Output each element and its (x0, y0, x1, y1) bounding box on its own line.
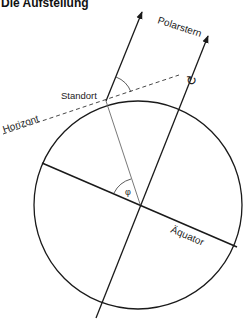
aequator-label: Äquator (169, 224, 206, 248)
earth-orientation-diagram: Polarstern Standort Horizont Äquator φ ↻ (0, 0, 248, 326)
phi-label: φ (125, 187, 131, 197)
equator-line (42, 163, 237, 247)
polarstern-label: Polarstern (156, 14, 203, 39)
rotation-icon: ↻ (186, 73, 197, 88)
horizont-label: Horizont (1, 113, 40, 135)
standort-polar-arrow (106, 12, 142, 101)
horizon-angle-arc (116, 77, 131, 92)
standort-label: Standort (61, 90, 97, 101)
standort-radius (106, 101, 140, 204)
